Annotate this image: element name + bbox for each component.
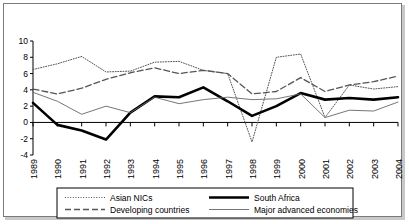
x-tick-label: 1997 xyxy=(224,159,234,179)
y-tick-label: 2 xyxy=(23,101,28,111)
y-tick-label: 0 xyxy=(23,117,28,127)
plot-area-wrapper: 1086420-2-4 1989199019911992199319941995… xyxy=(0,0,409,224)
x-tick-label: 1993 xyxy=(126,159,136,179)
legend-label: Major advanced economies xyxy=(254,205,358,215)
x-tick-label: 1996 xyxy=(199,159,209,179)
x-tick-label: 2000 xyxy=(297,159,307,179)
x-tick-label: 2002 xyxy=(345,159,355,179)
y-tick-label: -2 xyxy=(20,134,28,144)
x-axis xyxy=(33,122,398,126)
x-tick-label: 2004 xyxy=(394,159,404,179)
y-tick-label: 10 xyxy=(19,36,29,46)
data-series-group xyxy=(33,54,398,142)
chart-figure: 1086420-2-4 1989199019911992199319941995… xyxy=(0,0,409,224)
x-tick-label: 1991 xyxy=(78,159,88,179)
x-tick-label: 1990 xyxy=(53,159,63,179)
legend-label: South Africa xyxy=(254,193,300,203)
x-tick-label: 1994 xyxy=(151,159,161,179)
legend-label: Asian NICs xyxy=(110,193,153,203)
x-tick-label: 1999 xyxy=(272,159,282,179)
y-tick-label: -4 xyxy=(20,150,28,160)
line-chart-canvas: 1086420-2-4 1989199019911992199319941995… xyxy=(0,0,409,224)
x-tick-label: 2001 xyxy=(321,159,331,179)
x-tick-label: 2003 xyxy=(370,159,380,179)
y-axis: 1086420-2-4 xyxy=(19,36,33,160)
x-tick-label: 1989 xyxy=(29,159,39,179)
x-tick-label: 1995 xyxy=(175,159,185,179)
series-line-major-advanced-economies xyxy=(33,92,398,117)
x-tick-labels: 1989199019911992199319941995199619971998… xyxy=(29,159,404,179)
x-tick-label: 1998 xyxy=(248,159,258,179)
legend-label: Developing countries xyxy=(110,205,189,215)
series-line-south-africa xyxy=(33,87,398,139)
y-tick-label: 8 xyxy=(23,52,28,62)
chart-legend: Asian NICsSouth AfricaDeveloping countri… xyxy=(57,188,358,218)
y-tick-label: 6 xyxy=(23,69,28,79)
y-tick-label: 4 xyxy=(23,85,28,95)
x-tick-label: 1992 xyxy=(102,159,112,179)
